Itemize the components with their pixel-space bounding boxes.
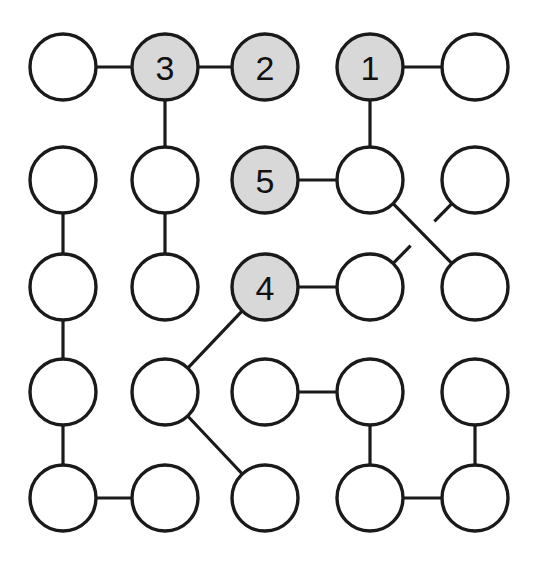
node-circle-plain[interactable] [132,147,198,213]
node-circle-plain[interactable] [30,34,96,100]
node-2[interactable]: 2 [232,34,298,100]
node-5[interactable]: 5 [232,147,298,213]
node-r1c5[interactable] [442,34,508,100]
node-r2c4[interactable] [337,147,403,213]
node-r5c5[interactable] [442,465,508,531]
node-r2c2[interactable] [132,147,198,213]
node-r4c5[interactable] [442,359,508,425]
node-circle-plain[interactable] [442,254,508,320]
node-r5c4[interactable] [337,465,403,531]
node-r5c2[interactable] [132,465,198,531]
node-4[interactable]: 4 [232,254,298,320]
node-r5c1[interactable] [30,465,96,531]
node-r3c4[interactable] [337,254,403,320]
node-circle-plain[interactable] [30,254,96,320]
node-circle-plain[interactable] [30,147,96,213]
node-circle-plain[interactable] [232,359,298,425]
nodes-layer: 32154 [30,34,508,531]
node-r4c4[interactable] [337,359,403,425]
graph-diagram: 32154 [0,0,544,563]
node-circle-plain[interactable] [132,254,198,320]
node-label: 4 [256,269,275,307]
node-circle-plain[interactable] [442,359,508,425]
node-r3c1[interactable] [30,254,96,320]
node-label: 3 [156,49,175,87]
node-label: 1 [361,49,380,87]
edge-r3c3-r4c2 [187,310,243,369]
node-r5c3[interactable] [232,465,298,531]
node-r4c1[interactable] [30,359,96,425]
node-label: 2 [256,49,275,87]
node-circle-plain[interactable] [30,359,96,425]
node-circle-plain[interactable] [337,254,403,320]
node-circle-plain[interactable] [337,465,403,531]
edge-r4c2-r5c3 [187,415,243,474]
node-r3c5[interactable] [442,254,508,320]
node-r2c5[interactable] [442,147,508,213]
node-3[interactable]: 3 [132,34,198,100]
graph-canvas: 32154 [0,0,544,563]
node-1[interactable]: 1 [337,34,403,100]
node-circle-plain[interactable] [132,465,198,531]
node-circle-plain[interactable] [442,34,508,100]
node-r2c1[interactable] [30,147,96,213]
node-circle-plain[interactable] [337,359,403,425]
node-circle-plain[interactable] [132,359,198,425]
node-r4c2[interactable] [132,359,198,425]
node-label: 5 [256,162,275,200]
node-circle-plain[interactable] [30,465,96,531]
node-circle-plain[interactable] [337,147,403,213]
node-r1c1[interactable] [30,34,96,100]
node-r4c3[interactable] [232,359,298,425]
node-r3c2[interactable] [132,254,198,320]
node-circle-plain[interactable] [442,465,508,531]
node-circle-plain[interactable] [442,147,508,213]
node-circle-plain[interactable] [232,465,298,531]
